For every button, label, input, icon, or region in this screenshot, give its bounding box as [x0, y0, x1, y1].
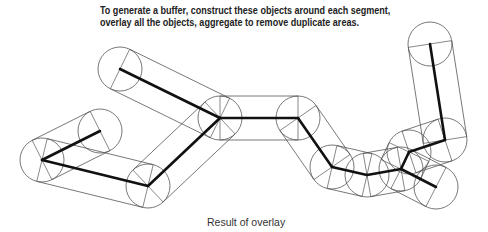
segment-line [367, 169, 401, 175]
buffer-endcap-spokes [32, 41, 467, 208]
buffer-edge [408, 47, 423, 143]
buffer-overlay-diagram [0, 0, 488, 232]
segment-line [120, 69, 220, 118]
buffer-edge [37, 181, 143, 207]
segment-line [42, 160, 148, 186]
polyline-centerline [42, 44, 445, 187]
buffer-edge [280, 131, 314, 180]
buffer-edge [452, 41, 467, 137]
buffer-edge [327, 188, 362, 196]
segment-line [148, 118, 220, 186]
segment-line [430, 44, 445, 140]
buffer-edge [371, 191, 405, 197]
segment-line [401, 152, 409, 169]
buffer-edge [32, 111, 90, 140]
segment-line [332, 167, 367, 175]
buffer-edge [363, 147, 397, 153]
buffer-outlines [20, 22, 467, 209]
buffer-edge [110, 89, 210, 138]
segment-line [298, 118, 332, 167]
diagram-caption: Result of overlay [207, 216, 285, 228]
buffer-edge [130, 49, 230, 98]
buffer-edge [391, 189, 426, 207]
buffer-edge [47, 139, 153, 165]
buffer-edge [133, 102, 205, 170]
buffer-edge [416, 161, 452, 173]
segment-line [409, 140, 445, 152]
buffer-edge [411, 149, 446, 167]
segment-line [42, 131, 100, 160]
buffer-edge [163, 134, 235, 202]
